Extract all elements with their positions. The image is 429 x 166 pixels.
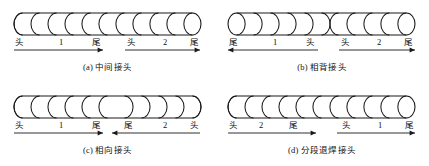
segment-d-1-start: 头 bbox=[342, 121, 351, 130]
weld-bead-d-svg bbox=[215, 92, 429, 122]
segment-b-1-number: 2 bbox=[377, 38, 381, 47]
arrow-row-b bbox=[215, 36, 429, 60]
weld-bead-b bbox=[215, 9, 429, 39]
weld-bead-c bbox=[0, 92, 215, 122]
weld-bead-d bbox=[215, 92, 429, 122]
arrow-row-d bbox=[215, 119, 429, 143]
segment-d-0-number: 2 bbox=[259, 121, 263, 130]
segment-a-1-start: 头 bbox=[127, 38, 136, 47]
segment-a-1-number: 2 bbox=[163, 38, 167, 47]
arrow-row-a-svg bbox=[0, 36, 215, 60]
segment-b-1-start: 头 bbox=[341, 38, 350, 47]
segment-d-0-end: 尾 bbox=[289, 121, 298, 130]
weld-bead-a bbox=[0, 9, 215, 39]
panel-c-caption: (c) 相向接头 bbox=[0, 143, 215, 155]
panel-b-caption: (b) 相背接头 bbox=[215, 60, 429, 72]
arrow-row-a bbox=[0, 36, 215, 60]
segment-d-1-end: 尾 bbox=[405, 121, 414, 130]
segment-b-0-start: 尾 bbox=[229, 38, 238, 47]
segment-a-0-end: 尾 bbox=[92, 38, 101, 47]
weld-joint-figure: 头 1 尾 头 2 尾 (a) 中间接头 尾 1 头 头 2 尾 (b) 相背接… bbox=[0, 0, 429, 166]
segment-b-0-number: 1 bbox=[273, 38, 277, 47]
segment-b-0-end: 头 bbox=[306, 38, 315, 47]
arrow-row-c bbox=[0, 119, 215, 143]
segment-c-1-end: 头 bbox=[190, 121, 199, 130]
panel-a: 头 1 尾 头 2 尾 (a) 中间接头 bbox=[0, 0, 215, 83]
segment-b-1-end: 尾 bbox=[404, 38, 413, 47]
segment-c-0-end: 尾 bbox=[92, 121, 101, 130]
segment-a-0-number: 1 bbox=[59, 38, 63, 47]
segment-a-1-end: 尾 bbox=[190, 38, 199, 47]
arrow-row-d-svg bbox=[215, 119, 429, 143]
weld-bead-c-svg bbox=[0, 92, 215, 122]
panel-b: 尾 1 头 头 2 尾 (b) 相背接头 bbox=[215, 0, 429, 83]
panel-d-caption: (d) 分段退焊接头 bbox=[215, 143, 429, 155]
segment-c-1-number: 2 bbox=[163, 121, 167, 130]
panel-c: 头 1 尾 尾 2 头 (c) 相向接头 bbox=[0, 83, 215, 166]
segment-c-1-start: 尾 bbox=[124, 121, 133, 130]
segment-c-0-start: 头 bbox=[15, 121, 24, 130]
segment-c-0-number: 1 bbox=[59, 121, 63, 130]
segment-d-0-start: 头 bbox=[229, 121, 238, 130]
arrow-row-b-svg bbox=[215, 36, 429, 60]
panel-d: 头 2 尾 头 1 尾 (d) 分段退焊接头 bbox=[215, 83, 429, 166]
segment-a-0-start: 头 bbox=[15, 38, 24, 47]
segment-d-1-number: 1 bbox=[378, 121, 382, 130]
weld-bead-b-svg bbox=[215, 9, 429, 39]
weld-bead-a-svg bbox=[0, 9, 215, 39]
arrow-row-c-svg bbox=[0, 119, 215, 143]
panel-a-caption: (a) 中间接头 bbox=[0, 60, 215, 72]
